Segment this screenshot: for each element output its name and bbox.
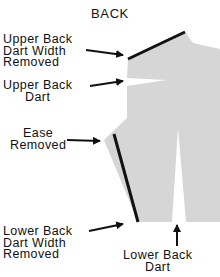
arrow-upper-width (86, 50, 123, 55)
label-lower-dart-width-removed: Lower Back Dart Width Removed (3, 226, 72, 261)
label-upper-back-dart: Upper Back Dart (3, 80, 72, 103)
label-lower-back-dart: Lower Back Dart (123, 250, 192, 273)
arrow-lower-width (89, 224, 123, 231)
arrow-ease (67, 140, 100, 141)
label-upper-dart-width-removed: Upper Back Dart Width Removed (3, 34, 72, 69)
label-ease-removed: Ease Removed (10, 128, 66, 151)
pattern-piece-shape (104, 32, 220, 222)
arrow-upper-dart (90, 81, 123, 86)
